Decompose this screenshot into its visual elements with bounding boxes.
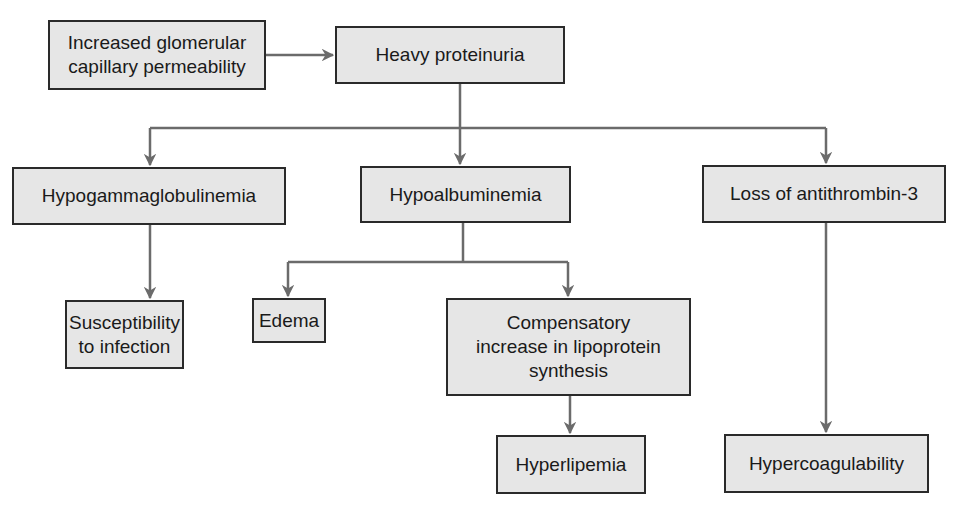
node-label: Hypoalbuminemia [389,183,541,207]
node-label: Compensatory increase in lipoprotein syn… [476,311,661,383]
node-label: Hypercoagulability [749,452,904,476]
node-label: Increased glomerular capillary permeabil… [68,31,246,79]
flowchart: Increased glomerular capillary permeabil… [0,0,954,513]
node-compensatory-lipoprotein: Compensatory increase in lipoprotein syn… [446,298,691,396]
node-label: Hyperlipemia [516,453,627,477]
node-susceptibility-infection: Susceptibility to infection [65,300,184,369]
node-hypercoagulability: Hypercoagulability [724,434,929,493]
node-label: Loss of antithrombin-3 [730,182,918,206]
node-loss-antithrombin: Loss of antithrombin-3 [702,165,946,223]
node-edema: Edema [252,298,326,343]
node-increased-permeability: Increased glomerular capillary permeabil… [48,20,266,90]
node-heavy-proteinuria: Heavy proteinuria [335,26,565,84]
node-label: Hypogammaglobulinemia [42,184,256,208]
node-label: Heavy proteinuria [376,43,525,67]
node-hypogammaglobulinemia: Hypogammaglobulinemia [12,167,286,225]
node-hypoalbuminemia: Hypoalbuminemia [360,166,571,223]
node-label: Susceptibility to infection [69,311,180,359]
node-hyperlipemia: Hyperlipemia [496,435,646,494]
node-label: Edema [259,309,319,333]
